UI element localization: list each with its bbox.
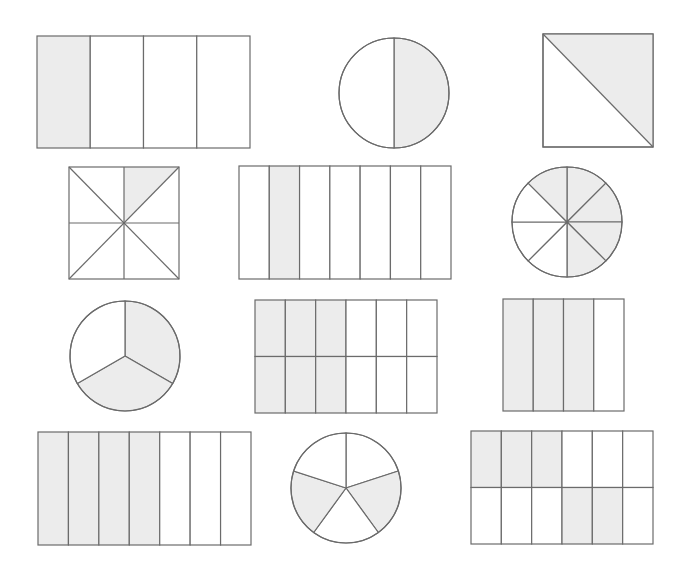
blank-cell [300,166,330,279]
shaded-cell [564,299,594,411]
shaded-cell [592,488,622,545]
blank-cell [623,488,653,545]
blank-cell [239,166,269,279]
fraction-shape-r4c2 [291,433,401,543]
shaded-cell [316,300,346,357]
blank-cell [90,36,143,148]
blank-cell [421,166,451,279]
fraction-shape-r2c3 [512,167,622,277]
fraction-shape-r1c3 [543,34,653,147]
fraction-shape-r2c1 [69,167,179,279]
blank-cell [407,357,437,414]
shaded-cell [129,432,159,545]
fraction-shape-r4c1 [38,432,251,545]
shaded-cell [471,431,501,488]
blank-cell [360,166,390,279]
shaded-sector [394,38,449,148]
shaded-cell [38,432,68,545]
shaded-cell [501,431,531,488]
shaded-cell [503,299,533,411]
blank-cell [562,431,592,488]
shaded-cell [269,166,299,279]
shaded-cell [316,357,346,414]
blank-cell [532,488,562,545]
shaded-cell [255,357,285,414]
fraction-shapes-canvas [0,0,686,572]
blank-cell [390,166,420,279]
blank-cell [407,300,437,357]
blank-cell [197,36,250,148]
shaded-cell [285,357,315,414]
shaded-cell [533,299,563,411]
shaded-cell [99,432,129,545]
blank-cell [190,432,220,545]
blank-cell [346,357,376,414]
blank-cell [144,36,197,148]
blank-cell [376,300,406,357]
blank-cell [330,166,360,279]
shaded-cell [37,36,90,148]
blank-cell [221,432,251,545]
fraction-shape-r4c3 [471,431,653,544]
shaded-cell [285,300,315,357]
blank-cell [623,431,653,488]
fraction-shape-r2c2 [239,166,451,279]
shaded-cell [532,431,562,488]
shaded-cell [562,488,592,545]
shaded-cell [255,300,285,357]
shaded-cell [68,432,98,545]
fraction-shape-r1c2 [339,38,449,148]
blank-cell [471,488,501,545]
blank-cell [160,432,190,545]
blank-cell [592,431,622,488]
blank-cell [376,357,406,414]
blank-cell [501,488,531,545]
fraction-shape-r3c3 [503,299,624,411]
fraction-shape-r3c1 [70,301,180,411]
fraction-shape-r1c1 [37,36,250,148]
blank-cell [594,299,624,411]
blank-cell [346,300,376,357]
fraction-shape-r3c2 [255,300,437,413]
blank-sector [339,38,394,148]
